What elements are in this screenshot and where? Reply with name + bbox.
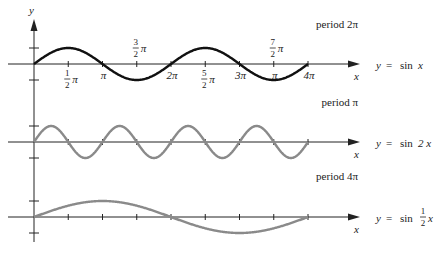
equation-func: sin	[400, 137, 413, 149]
sine-period-figure: y xperiod 2πy=sinx32π72π12ππ2π52π3ππ4π x…	[0, 0, 440, 254]
panel-title: period 4π	[316, 170, 358, 182]
x-tick-label-above-numerator: 3	[134, 37, 139, 47]
x-axis-label: x	[353, 148, 359, 160]
equation-fraction-denominator: 2	[421, 218, 426, 228]
y-axis-arrow-icon	[31, 19, 38, 31]
x-tick-label-above-numerator: 7	[271, 37, 276, 47]
equation-equals: =	[386, 59, 392, 71]
x-tick-label-below: π	[101, 69, 107, 81]
equation-y: y	[375, 212, 381, 224]
panel-sin-2x: xperiod πy=sin2 x	[8, 96, 431, 160]
x-tick-label-below: 4π	[303, 69, 315, 81]
x-axis-label: x	[353, 70, 359, 82]
x-tick-label-below: 2π	[166, 69, 178, 81]
x-tick-label-above-denominator: 2	[271, 49, 276, 59]
x-tick-label-above-denominator: 2	[134, 49, 139, 59]
x-axis-label: x	[353, 223, 359, 235]
equation-arg: 2 x	[418, 137, 431, 149]
x-tick-label-below-denominator: 2	[202, 80, 207, 90]
x-tick-label-below-denominator: 2	[65, 80, 70, 90]
x-tick-label-below-numerator: 1	[65, 68, 70, 78]
x-tick-label-below-symbol: π	[72, 73, 78, 85]
x-axis-arrow-icon	[348, 214, 360, 221]
x-tick-label-below-symbol: π	[209, 73, 215, 85]
x-tick-label-below-numerator: 5	[202, 68, 207, 78]
equation-arg: x	[417, 59, 423, 71]
equation-equals: =	[386, 212, 392, 224]
equation-y: y	[375, 59, 381, 71]
panel-sin-half-x: xperiod 4πy=sin12x	[8, 170, 433, 235]
x-axis-arrow-icon	[348, 61, 360, 68]
y-axis-label: y	[28, 4, 34, 16]
equation-func: sin	[400, 212, 413, 224]
x-tick-label-below: π	[272, 69, 278, 81]
x-tick-label-above-symbol: π	[141, 42, 147, 54]
equation-equals: =	[386, 137, 392, 149]
equation-fraction-numerator: 1	[421, 206, 426, 216]
equation-y: y	[375, 137, 381, 149]
x-tick-label-above-symbol: π	[278, 42, 284, 54]
panel-title: period π	[322, 96, 359, 108]
x-tick-label-below: 3π	[234, 69, 247, 81]
panel-sin-x: xperiod 2πy=sinx32π72π12ππ2π52π3ππ4π	[8, 18, 423, 90]
panel-title: period 2π	[316, 18, 358, 30]
equation-arg: x	[427, 212, 433, 224]
equation-func: sin	[400, 59, 413, 71]
x-axis-arrow-icon	[348, 139, 360, 146]
